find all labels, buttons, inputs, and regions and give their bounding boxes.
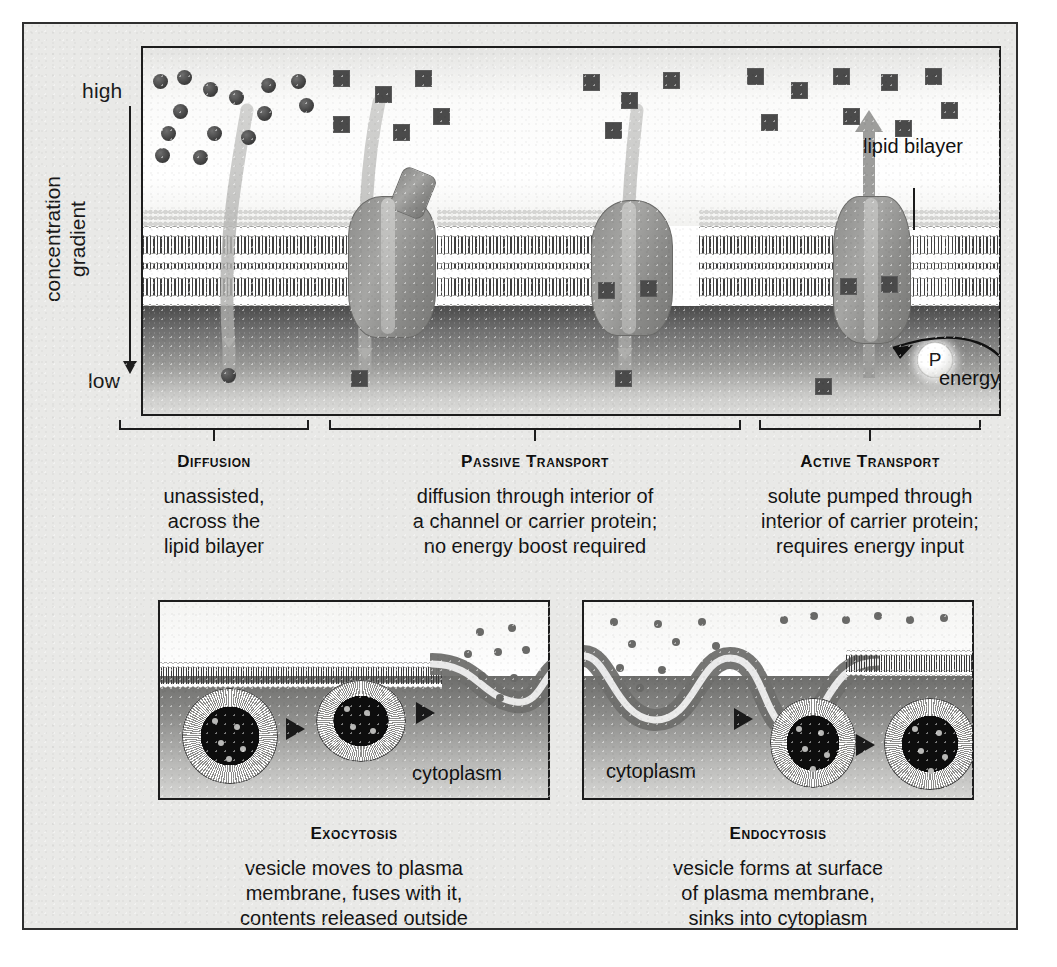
- solute-square: [598, 282, 615, 299]
- figure-page: high low concentration gradient: [0, 0, 1057, 967]
- bracket-diffusion: [119, 420, 309, 442]
- solute-square: [925, 68, 942, 85]
- axis-low-label: low: [88, 369, 120, 393]
- caption-exocytosis: Exocytosis vesicle moves to plasma membr…: [158, 824, 550, 931]
- plasma-membrane: [846, 650, 974, 676]
- caption-title: Active Transport: [759, 452, 981, 472]
- solute-square: [333, 116, 350, 133]
- solute-square: [583, 74, 600, 91]
- solute-circle: [155, 148, 170, 163]
- process-arrow-icon: [734, 708, 753, 730]
- process-arrow-icon: [286, 718, 305, 740]
- solute-circle: [203, 82, 218, 97]
- diffusion-flow-arrow: [227, 110, 247, 364]
- lipid-bilayer-leader-line: [913, 188, 915, 230]
- lipid-bilayer-label: lipid bilayer: [843, 134, 983, 158]
- axis-line: [129, 106, 131, 368]
- axis-arrowhead-icon: [123, 361, 137, 374]
- solute-square: [840, 278, 857, 295]
- solute-square: [615, 370, 632, 387]
- vesicle: [884, 698, 974, 790]
- solute-square: [663, 72, 680, 89]
- figure-plate: high low concentration gradient: [22, 22, 1018, 930]
- bracket-passive-transport: [329, 420, 741, 442]
- solute-square: [881, 276, 898, 293]
- solute-circle: [173, 104, 188, 119]
- solute-circle: [193, 150, 208, 165]
- solute-circle: [207, 126, 222, 141]
- caption-body: solute pumped through interior of carrie…: [759, 484, 981, 559]
- solute-square: [833, 68, 850, 85]
- solute-circle: [257, 106, 272, 121]
- solute-square: [881, 74, 898, 91]
- solute-square: [815, 378, 832, 395]
- process-arrow-icon: [856, 734, 875, 756]
- caption-title: Passive Transport: [329, 452, 741, 472]
- endocytosis-panel: cytoplasm: [582, 600, 974, 800]
- solute-circle: [161, 126, 176, 141]
- caption-diffusion: Diffusion unassisted, across the lipid b…: [119, 452, 309, 559]
- axis-high-label: high: [82, 79, 123, 103]
- cytoplasm-label: cytoplasm: [606, 760, 696, 783]
- plasma-membrane: [158, 662, 442, 688]
- solute-circle: [177, 70, 192, 85]
- caption-passive-transport: Passive Transport diffusion through inte…: [329, 452, 741, 559]
- vesicle-fusing: [316, 680, 406, 762]
- solute-square: [333, 70, 350, 87]
- solute-square: [747, 68, 764, 85]
- solute-circle: [261, 78, 276, 93]
- solute-circle: [153, 74, 168, 89]
- solute-square: [941, 102, 958, 119]
- solute-circle-crossed: [221, 368, 236, 383]
- solute-circle: [229, 90, 244, 105]
- extracellular-particles: [780, 608, 970, 634]
- solute-square: [843, 108, 860, 125]
- caption-body: vesicle forms at surface of plasma membr…: [582, 856, 974, 931]
- caption-active-transport: Active Transport solute pumped through i…: [759, 452, 981, 559]
- solute-square: [433, 108, 450, 125]
- solute-circle: [241, 130, 256, 145]
- released-contents: [460, 624, 550, 704]
- caption-title: Endocytosis: [582, 824, 974, 844]
- solute-circle: [299, 98, 314, 113]
- solute-square: [640, 280, 657, 297]
- extracellular-particles: [602, 618, 732, 698]
- energy-input-label: energy input: [939, 366, 1001, 391]
- solute-square: [351, 370, 368, 387]
- vesicle: [182, 688, 278, 784]
- solute-square: [375, 86, 392, 103]
- caption-body: diffusion through interior of a channel …: [329, 484, 741, 559]
- caption-endocytosis: Endocytosis vesicle forms at surface of …: [582, 824, 974, 931]
- channel-pore: [381, 198, 395, 334]
- solute-square: [621, 92, 638, 109]
- axis-caption: concentration gradient: [40, 144, 90, 334]
- exocytosis-panel: cytoplasm: [158, 600, 550, 800]
- solute-square: [393, 124, 410, 141]
- bracket-active-transport: [759, 420, 981, 442]
- solute-square: [605, 122, 622, 139]
- solute-square: [791, 82, 808, 99]
- solute-square: [415, 70, 432, 87]
- caption-body: unassisted, across the lipid bilayer: [119, 484, 309, 559]
- process-arrow-icon: [416, 702, 435, 724]
- vesicle-forming: [770, 698, 856, 788]
- carrier-pore: [622, 202, 636, 334]
- transport-panel: lipid bilayer P .p-circle{ left:774px; t…: [141, 46, 1001, 416]
- caption-body: vesicle moves to plasma membrane, fuses …: [158, 856, 550, 931]
- cytoplasm-label: cytoplasm: [412, 762, 502, 785]
- solute-circle: [291, 74, 306, 89]
- caption-title: Diffusion: [119, 452, 309, 472]
- solute-square: [761, 114, 778, 131]
- caption-title: Exocytosis: [158, 824, 550, 844]
